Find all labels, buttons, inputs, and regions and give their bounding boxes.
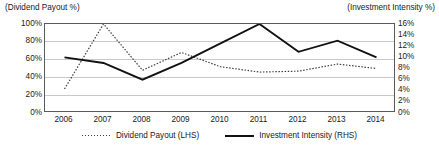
- right-axis-tick-label: 8%: [398, 63, 438, 72]
- right-axis-tick-label: 12%: [398, 41, 438, 50]
- left-axis-tick-label: 100%: [2, 19, 42, 28]
- left-axis-caption: (Dividend Payout %): [5, 3, 80, 13]
- x-axis-tick-label: 2011: [239, 115, 279, 125]
- x-axis-tick-label: 2008: [122, 115, 162, 125]
- x-axis-tick-label: 2013: [317, 115, 357, 125]
- right-axis-tick-label: 0%: [398, 108, 438, 117]
- chart-legend: Dividend Payout (LHS)Investment Intensit…: [0, 131, 439, 140]
- right-axis-tick-label: 16%: [398, 19, 438, 28]
- left-axis-tick-label: 80%: [2, 36, 42, 45]
- right-axis-caption: (Investment Intensity %): [347, 3, 435, 13]
- x-axis-tick-label: 2014: [356, 115, 396, 125]
- left-axis-tick-label: 0%: [2, 108, 42, 117]
- legend-item[interactable]: Investment Intensity (RHS): [225, 131, 357, 140]
- legend-item-label: Investment Intensity (RHS): [259, 131, 357, 140]
- legend-line-swatch-icon: [225, 134, 254, 137]
- left-axis-tick-label: 60%: [2, 54, 42, 63]
- left-axis-tick-label: 20%: [2, 90, 42, 99]
- legend-item[interactable]: Dividend Payout (LHS): [82, 131, 199, 140]
- left-axis-tick-label: 40%: [2, 72, 42, 81]
- legend-line-swatch-icon: [82, 134, 111, 137]
- x-axis-tick-label: 2010: [200, 115, 240, 125]
- series-line-dividend-payout: [65, 24, 377, 89]
- dual-axis-line-chart: (Dividend Payout %) (Investment Intensit…: [0, 0, 439, 151]
- x-axis-tick-label: 2006: [44, 115, 84, 125]
- x-axis-tick-label: 2012: [278, 115, 318, 125]
- right-axis-tick-label: 10%: [398, 52, 438, 61]
- right-axis-tick-label: 14%: [398, 30, 438, 39]
- right-axis-tick-label: 6%: [398, 74, 438, 83]
- plot-area: [44, 23, 395, 112]
- x-axis-tick-label: 2007: [83, 115, 123, 125]
- right-axis-tick-label: 2%: [398, 96, 438, 105]
- series-lines: [45, 24, 396, 113]
- legend-item-label: Dividend Payout (LHS): [116, 131, 199, 140]
- right-axis-tick-label: 4%: [398, 85, 438, 94]
- x-axis-tick-label: 2009: [161, 115, 201, 125]
